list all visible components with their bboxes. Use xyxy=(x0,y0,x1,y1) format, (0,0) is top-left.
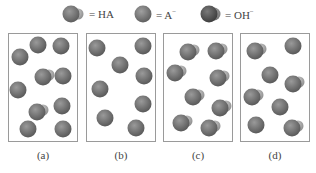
hydroxide-ion-icon xyxy=(200,5,222,23)
ha-molecule-icon xyxy=(239,84,265,110)
legend-label-ha: = HA xyxy=(89,8,114,20)
ha-molecule-icon xyxy=(196,115,222,141)
ha-molecule-icon xyxy=(279,115,305,141)
legend-item-ha: = HA xyxy=(62,4,114,24)
a-minus-ion-icon xyxy=(50,116,76,142)
a-minus-ion-icon xyxy=(133,5,153,23)
ha-molecule-icon xyxy=(242,38,268,64)
ha-molecule-icon xyxy=(203,38,229,64)
charge-superscript: − xyxy=(172,8,176,16)
a-minus-ion-icon xyxy=(243,112,269,138)
legend-label-a-minus-text: = A xyxy=(156,8,172,20)
panel-label-d: (d) xyxy=(240,149,310,161)
a-minus-ion-icon xyxy=(48,33,74,59)
legend-label-oh-minus: = OH− xyxy=(225,8,254,21)
legend: = HA = A− = OH− xyxy=(0,0,316,28)
panel-label-c: (c) xyxy=(163,149,233,161)
ha-molecule-icon xyxy=(168,110,194,136)
a-minus-ion-icon xyxy=(131,63,157,89)
a-minus-ion-icon xyxy=(15,116,41,142)
ha-molecule-icon xyxy=(162,60,188,86)
ha-molecule-icon xyxy=(205,65,231,91)
a-minus-ion-icon xyxy=(280,33,306,59)
panel-label-a: (a) xyxy=(8,149,78,161)
a-minus-ion-icon xyxy=(92,105,118,131)
ha-molecule-icon xyxy=(180,84,206,110)
legend-label-oh-minus-text: = OH xyxy=(225,8,250,20)
ha-molecule-icon xyxy=(62,5,86,23)
a-minus-ion-icon xyxy=(123,115,149,141)
a-minus-ion-icon xyxy=(87,76,113,102)
legend-item-oh-minus: = OH− xyxy=(200,4,254,24)
a-minus-ion-icon xyxy=(107,52,133,78)
a-minus-ion-icon xyxy=(50,63,76,89)
charge-superscript: − xyxy=(250,8,254,16)
panel-label-b: (b) xyxy=(86,149,156,161)
legend-label-a-minus: = A− xyxy=(156,8,176,21)
a-minus-ion-icon xyxy=(130,33,156,59)
legend-item-a-minus: = A− xyxy=(133,4,176,24)
a-minus-ion-icon xyxy=(130,91,156,117)
